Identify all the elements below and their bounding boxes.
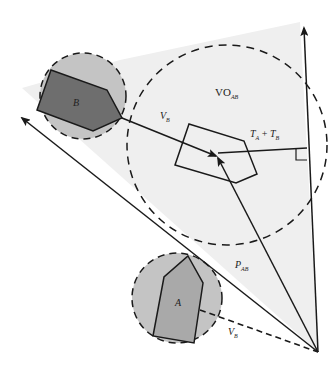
label-vb-lower: VB: [228, 326, 238, 339]
label-robot-b: B: [73, 97, 79, 108]
vo-diagram: VOAB VB TA + TB PAB VB A B: [0, 0, 335, 376]
label-robot-a: A: [174, 297, 182, 308]
